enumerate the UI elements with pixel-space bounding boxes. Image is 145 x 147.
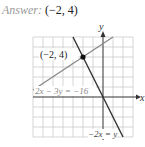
point-label: (−2, 4) <box>40 49 67 61</box>
x-axis-label: x <box>139 92 145 103</box>
coordinate-graph: x y (−2, 4) 2x − 3y = −16 −2x = y <box>0 0 145 147</box>
y-axis-label: y <box>98 21 104 32</box>
line2-label: −2x = y <box>88 129 117 139</box>
line1-label: 2x − 3y = −16 <box>35 86 89 96</box>
intersection-point <box>80 54 85 59</box>
